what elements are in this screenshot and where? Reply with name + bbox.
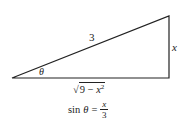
fraction-denominator: 3 bbox=[102, 110, 107, 120]
equals-sign: = bbox=[91, 105, 97, 116]
fraction-numerator: x bbox=[100, 100, 108, 110]
right-triangle bbox=[12, 16, 169, 78]
adjacent-side-label: √9 − x2 bbox=[73, 82, 105, 96]
radicand-constant: 9 − bbox=[80, 84, 96, 95]
equation-theta: θ bbox=[83, 105, 88, 116]
radicand-exponent: 2 bbox=[101, 83, 105, 91]
sin-function: sin bbox=[68, 105, 80, 116]
opposite-side-label: x bbox=[172, 42, 177, 53]
fraction: x 3 bbox=[100, 100, 108, 120]
hypotenuse-label: 3 bbox=[89, 32, 95, 43]
sine-equation: sin θ = x 3 bbox=[68, 100, 108, 120]
angle-theta-label: θ bbox=[39, 67, 44, 77]
radicand: 9 − x2 bbox=[79, 82, 106, 96]
